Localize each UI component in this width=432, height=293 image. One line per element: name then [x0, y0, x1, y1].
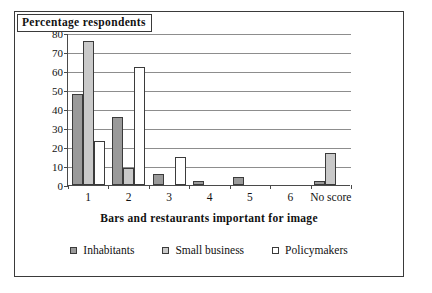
legend-item-label: Policymakers	[285, 244, 348, 256]
x-axis-tick-label: 4	[207, 191, 213, 203]
bar-group	[274, 34, 307, 185]
legend-item-label: Small business	[175, 244, 244, 256]
bar	[233, 177, 244, 185]
bar	[112, 117, 123, 185]
x-axis-tick-mark	[230, 185, 231, 189]
bar-series-container	[68, 34, 350, 185]
bar	[94, 141, 105, 185]
y-axis-tick-label: 40	[52, 105, 63, 116]
x-axis-tick-mark	[108, 185, 109, 189]
plot-area: 01020304050607080 123456No score	[67, 34, 350, 186]
x-axis-tick-label: 1	[85, 191, 91, 203]
chart-legend: InhabitantsSmall businessPolicymakers	[15, 244, 403, 256]
bar	[72, 94, 83, 185]
x-axis-tick-label: 2	[126, 191, 132, 203]
x-axis-tick-label: 6	[287, 191, 293, 203]
x-axis-tick-mark	[270, 185, 271, 189]
bar-group	[112, 34, 145, 185]
legend-item[interactable]: Policymakers	[272, 244, 348, 256]
x-axis-title: Bars and restaurants important for image	[15, 212, 403, 224]
y-axis-tick-label: 20	[52, 143, 63, 154]
legend-item[interactable]: Inhabitants	[70, 244, 134, 256]
bar	[83, 41, 94, 185]
chart-title: Percentage respondents	[22, 16, 146, 29]
bar	[325, 153, 336, 185]
bar	[193, 181, 204, 185]
x-axis-tick-mark	[149, 185, 150, 189]
y-axis-tick-label: 0	[58, 181, 64, 192]
bar-group	[72, 34, 105, 185]
y-axis-tick-label: 10	[52, 162, 63, 173]
bar	[153, 174, 164, 185]
x-axis-tick-mark	[189, 185, 190, 189]
x-axis-tick-mark	[351, 185, 352, 189]
bar-group	[233, 34, 266, 185]
chart-title-box: Percentage respondents	[17, 14, 152, 32]
legend-swatch-icon	[70, 247, 77, 254]
bar	[134, 67, 145, 185]
x-axis-tick-mark	[311, 185, 312, 189]
y-axis-tick-label: 30	[52, 124, 63, 135]
bar-group	[193, 34, 226, 185]
x-axis-tick-label: 3	[166, 191, 172, 203]
x-axis-tick-mark	[68, 185, 69, 189]
x-axis-tick-label: No score	[310, 191, 351, 203]
legend-item-label: Inhabitants	[83, 244, 134, 256]
bar	[123, 168, 134, 185]
chart-frame: Percentage respondents 01020304050607080…	[14, 11, 404, 277]
bar	[314, 181, 325, 185]
bar-group	[314, 34, 347, 185]
y-axis-tick-label: 60	[52, 67, 63, 78]
legend-item[interactable]: Small business	[162, 244, 244, 256]
y-axis-tick-label: 50	[52, 86, 63, 97]
legend-swatch-icon	[272, 247, 279, 254]
bar-group	[153, 34, 186, 185]
x-axis-tick-label: 5	[247, 191, 253, 203]
bar	[175, 157, 186, 186]
y-axis-tick-label: 70	[52, 48, 63, 59]
legend-swatch-icon	[162, 247, 169, 254]
